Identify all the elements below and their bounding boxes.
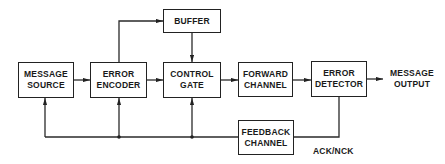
junction-dot [190,135,194,139]
label-line: MESSAGE [382,68,442,79]
block-buffer: BUFFER [163,9,221,33]
block-feedback-channel: FEEDBACK CHANNEL [238,120,294,155]
block-message-source: MESSAGE SOURCE [18,62,74,98]
block-label: FEEDBACK [242,127,291,138]
block-label: CHANNEL [245,138,288,149]
label-message-output: MESSAGE OUTPUT [382,68,442,90]
line-detector-to-feedback [294,97,339,137]
arrow-encoder-to-buffer [119,21,163,62]
block-label: GATE [180,80,204,91]
block-label: DETECTOR [315,79,363,90]
block-label: SOURCE [27,80,65,91]
block-label: FORWARD [243,69,288,80]
block-forward-channel: FORWARD CHANNEL [238,62,293,97]
label-line: OUTPUT [382,79,442,90]
block-label: CHANNEL [244,80,287,91]
block-label: ENCODER [97,80,141,91]
block-label: ERROR [323,68,355,79]
block-error-detector: ERROR DETECTOR [311,61,367,97]
block-label: MESSAGE [24,69,68,80]
block-label: BUFFER [174,16,210,27]
block-error-encoder: ERROR ENCODER [90,62,147,98]
block-label: CONTROL [170,69,213,80]
block-control-gate: CONTROL GATE [163,62,221,98]
block-label: ERROR [103,69,135,80]
label-ack-nck: ACK/NCK [313,146,354,157]
junction-dot [117,135,121,139]
